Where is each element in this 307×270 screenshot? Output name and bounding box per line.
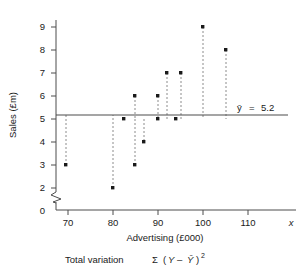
chart-screenshot: 9 8 7 6 5 4 3 2 0 70 80 90 (0, 0, 307, 270)
caption-sigma: Σ (152, 254, 158, 265)
data-point (165, 71, 168, 74)
x-tick-label-90: 90 (153, 217, 164, 228)
x-tick-label-80: 80 (108, 217, 119, 228)
y-tick-label-8: 8 (40, 44, 45, 55)
caption-ybar: Ȳ (187, 254, 194, 265)
data-point (142, 140, 145, 143)
data-point (201, 25, 204, 28)
mean-equals: = (249, 102, 255, 113)
chart-svg: 9 8 7 6 5 4 3 2 0 70 80 90 (0, 0, 307, 270)
caption-prefix: Total variation (65, 254, 124, 265)
y-tick-label-5: 5 (40, 113, 45, 124)
x-tick-label-70: 70 (63, 217, 74, 228)
caption-y: Y (168, 254, 175, 265)
y-tick-label-7: 7 (40, 67, 45, 78)
y-tick-label-0: 0 (40, 205, 45, 216)
data-point (179, 71, 182, 74)
y-tick-label-4: 4 (40, 136, 45, 147)
y-tick-label-9: 9 (40, 21, 45, 32)
mean-symbol: ȳ (237, 102, 242, 113)
x-tick-label-100: 100 (195, 217, 211, 228)
caption-exponent: 2 (201, 252, 205, 259)
chart-background (0, 0, 307, 270)
data-point (156, 94, 159, 97)
mean-value: 5.2 (261, 102, 274, 113)
y-tick-label-3: 3 (40, 159, 45, 170)
data-point (133, 163, 136, 166)
y-axis-title: Sales (£m) (7, 92, 18, 138)
data-point (111, 186, 114, 189)
data-point (224, 48, 227, 51)
data-point (156, 117, 159, 120)
data-point (64, 163, 67, 166)
scatter-chart-figure: 9 8 7 6 5 4 3 2 0 70 80 90 (0, 0, 307, 270)
x-tick-label-110: 110 (240, 217, 255, 228)
y-tick-label-6: 6 (40, 90, 45, 101)
data-point (122, 117, 125, 120)
caption-minus: – (177, 254, 183, 265)
caption-paren-close: ) (196, 254, 199, 265)
data-point (133, 94, 136, 97)
x-axis-title: Advertising (£000) (126, 232, 203, 243)
data-point (174, 117, 177, 120)
y-tick-label-2: 2 (40, 182, 45, 193)
